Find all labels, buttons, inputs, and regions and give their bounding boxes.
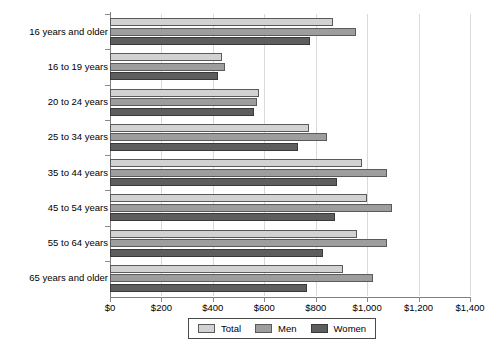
category-label: 16 to 19 years <box>4 62 108 72</box>
bar-total <box>110 18 333 26</box>
gridline <box>470 14 471 296</box>
chart-legend: TotalMenWomen <box>188 318 376 339</box>
bar-women <box>110 249 323 257</box>
bar-total <box>110 53 222 61</box>
bar-total <box>110 230 357 238</box>
legend-label: Men <box>278 323 296 334</box>
plot-area <box>110 14 470 296</box>
category-label: 35 to 44 years <box>4 168 108 178</box>
category-label: 20 to 24 years <box>4 97 108 107</box>
bar-men <box>110 204 392 212</box>
bar-total <box>110 194 367 202</box>
bar-men <box>110 98 257 106</box>
bar-women <box>110 37 310 45</box>
bar-men <box>110 274 373 282</box>
bar-women <box>110 108 254 116</box>
bar-women <box>110 284 307 292</box>
x-tick-label: $600 <box>254 302 275 313</box>
bar-chart: 16 years and older16 to 19 years20 to 24… <box>0 0 499 357</box>
bar-total <box>110 265 343 273</box>
bar-men <box>110 133 327 141</box>
category-label: 65 years and older <box>4 273 108 283</box>
bar-total <box>110 89 259 97</box>
category-label: 55 to 64 years <box>4 238 108 248</box>
category-label: 25 to 34 years <box>4 132 108 142</box>
legend-item-women[interactable]: Women <box>311 323 367 334</box>
x-tick-label: $800 <box>305 302 326 313</box>
legend-item-total[interactable]: Total <box>198 323 241 334</box>
bar-total <box>110 124 309 132</box>
x-tick-label: $1,000 <box>353 302 382 313</box>
legend-label: Total <box>221 323 241 334</box>
bar-women <box>110 143 298 151</box>
bar-men <box>110 63 225 71</box>
x-tick-label: $400 <box>202 302 223 313</box>
x-axis-line <box>110 297 471 298</box>
legend-swatch-women <box>311 324 328 333</box>
x-tick-label: $0 <box>105 302 116 313</box>
y-axis-labels: 16 years and older16 to 19 years20 to 24… <box>0 0 108 282</box>
bar-women <box>110 72 218 80</box>
bar-men <box>110 28 356 36</box>
x-tick-label: $1,400 <box>455 302 484 313</box>
category-label: 16 years and older <box>4 27 108 37</box>
x-tick-label: $200 <box>151 302 172 313</box>
legend-label: Women <box>334 323 367 334</box>
x-tick-label: $1,200 <box>404 302 433 313</box>
bar-women <box>110 213 335 221</box>
category-label: 45 to 54 years <box>4 203 108 213</box>
legend-item-men[interactable]: Men <box>255 323 296 334</box>
bar-men <box>110 169 387 177</box>
legend-swatch-total <box>198 324 215 333</box>
bar-women <box>110 178 337 186</box>
bar-total <box>110 159 362 167</box>
legend-swatch-men <box>255 324 272 333</box>
bar-men <box>110 239 387 247</box>
